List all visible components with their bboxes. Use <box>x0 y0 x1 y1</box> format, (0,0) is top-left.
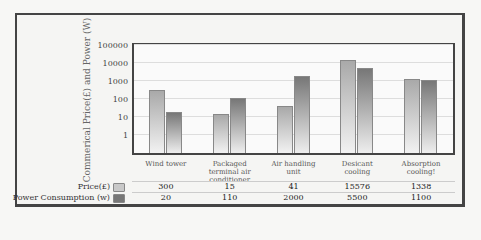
bar-power <box>166 112 182 153</box>
bar-price <box>404 79 420 153</box>
y-axis-label: Commerical Price(£) and Power (W) <box>80 30 94 170</box>
table-cell: 15576 <box>325 182 389 191</box>
gridline <box>134 44 453 45</box>
bar-power <box>230 98 246 153</box>
table-cell: 5500 <box>325 193 389 202</box>
y-tick-label: 1000 <box>108 77 128 86</box>
category-label: Absorptioncooling! <box>389 160 453 176</box>
y-tick-label: 10 <box>118 113 128 122</box>
bar-price <box>277 106 293 153</box>
y-tick-label: 1 <box>123 131 128 140</box>
table-cell: 20 <box>134 193 198 202</box>
legend-swatch-price <box>113 183 125 192</box>
table-cell: 15 <box>198 182 262 191</box>
table-row-power: Power Consumption (w) 20110200055001100 <box>20 193 460 204</box>
bar-power <box>357 68 373 153</box>
legend-label-power: Power Consumption (w) <box>13 193 110 202</box>
y-tick-label: 100 <box>113 95 128 104</box>
table-row-price: Price(£) 3001541155761338 <box>20 182 460 193</box>
bar-price <box>340 60 356 153</box>
table-cell: 2000 <box>262 193 326 202</box>
plot-area <box>132 43 455 155</box>
table-cell: 1100 <box>389 193 453 202</box>
bar-power <box>294 76 310 153</box>
category-label: Wind tower <box>134 160 198 168</box>
y-tick-label: 100000 <box>97 41 128 50</box>
bar-price <box>149 90 165 153</box>
category-label: Desicantcooling <box>325 160 389 176</box>
table-cell: 110 <box>198 193 262 202</box>
table-cell: 41 <box>262 182 326 191</box>
table-cell: 300 <box>134 182 198 191</box>
table-cell: 1338 <box>389 182 453 191</box>
gridline <box>134 62 453 63</box>
legend-swatch-power <box>113 194 125 203</box>
bar-price <box>213 114 229 153</box>
legend-label-price: Price(£) <box>78 182 110 191</box>
category-label: Air handlingunit <box>262 160 326 176</box>
y-tick-label: 10000 <box>103 59 128 68</box>
bar-power <box>421 80 437 153</box>
